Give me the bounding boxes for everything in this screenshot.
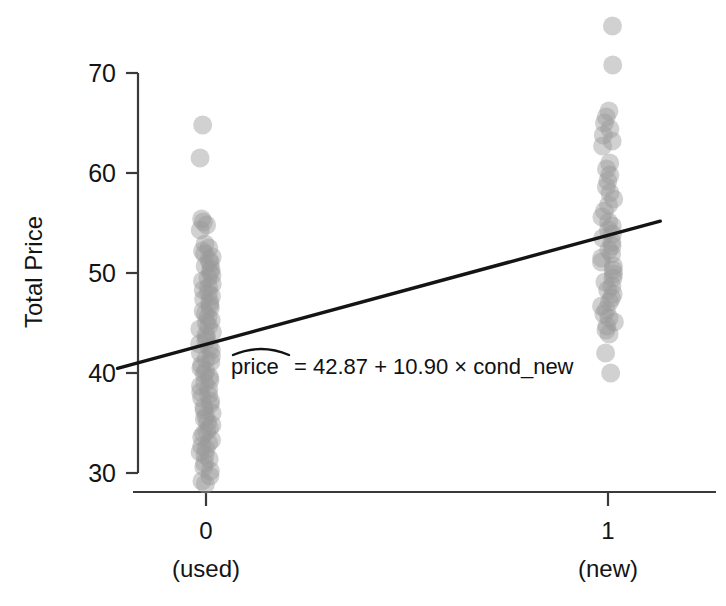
data-point [191,149,210,168]
y-tick-label-70: 70 [88,59,116,87]
y-axis-title: Total Price [20,216,47,328]
y-tick-label-30: 30 [88,459,116,487]
y-tick-label-40: 40 [88,359,116,387]
data-point [593,137,612,156]
y-axis: 70 60 50 40 30 [88,59,138,487]
data-points-layer [190,17,624,494]
plot-canvas: 70 60 50 40 30 Total Price 0 1 (used) (n… [0,0,726,606]
data-point [193,116,212,135]
data-point [600,325,619,344]
data-point [601,364,620,383]
data-point [603,56,622,75]
y-tick-label-60: 60 [88,159,116,187]
y-tick-label-50: 50 [88,259,116,287]
x-tick-label-1: 1 [601,517,614,544]
equation-lhs: price [231,354,279,379]
x-tick-label-0: 0 [199,517,212,544]
regression-equation-annotation: price = 42.87 + 10.90 × cond_new [231,349,574,379]
x-tick-sublabel-used: (used) [172,555,240,582]
x-tick-sublabel-new: (new) [578,555,638,582]
equation-rhs: = 42.87 + 10.90 × cond_new [294,354,574,379]
data-point [596,344,615,363]
scatter-plot-figure: 70 60 50 40 30 Total Price 0 1 (used) (n… [0,0,726,606]
data-point [196,475,215,494]
x-axis: 0 1 (used) (new) [133,492,716,582]
data-point [603,17,622,36]
